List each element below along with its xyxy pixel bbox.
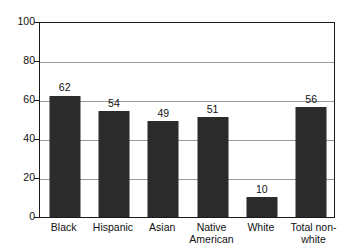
bar-value-label: 51 [207,104,219,115]
x-axis-label-white: White [236,221,285,233]
x-axis-label-hispanic: Hispanic [88,221,137,233]
bar-value-label: 62 [59,82,71,93]
x-axis-label-black: Black [39,221,88,233]
bar-hispanic[interactable] [98,111,129,217]
x-axis-label-total-non-white: Total non- white [286,221,342,245]
bar-value-label: 10 [256,184,268,195]
bar-slot: 49 [139,23,188,217]
x-axis-label-asian: Asian [138,221,187,233]
bar-asian[interactable] [148,121,179,217]
bar-slot: 62 [40,23,89,217]
bar-slot: 56 [287,23,336,217]
bar-chart: 100 80 60 40 20 0 62 54 49 [0,0,347,251]
x-axis-label-native-american: Native American [187,221,236,245]
bar-black[interactable] [49,96,80,218]
bar-white[interactable] [246,197,277,217]
bar-value-label: 54 [108,98,120,109]
bar-slot: 54 [89,23,138,217]
bars-layer: 62 54 49 51 10 56 [40,23,334,217]
bar-native-american[interactable] [197,117,228,217]
y-axis-tick-label: 100 [17,16,35,27]
bar-total-non-white[interactable] [296,107,327,217]
plot-area: 62 54 49 51 10 56 [39,22,335,218]
bar-slot: 51 [188,23,237,217]
bar-slot: 10 [237,23,286,217]
bar-value-label: 49 [157,108,169,119]
bar-value-label: 56 [305,94,317,105]
